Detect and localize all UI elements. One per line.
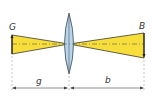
object-distance-label: g (36, 77, 42, 86)
object-ray-cone (12, 35, 69, 54)
dimension-g-arrow-right-icon (64, 87, 68, 90)
dimension-b-arrow-right-icon (140, 87, 144, 90)
image-ray-cone (69, 33, 144, 58)
object-label: G (9, 23, 16, 32)
dimension-g-arrow-left-icon (12, 87, 16, 90)
image-distance-label: b (105, 76, 111, 85)
image-label: B (139, 22, 145, 31)
dimension-b-arrow-left-icon (70, 87, 74, 90)
lens-diagram-svg (0, 0, 156, 98)
lens-diagram: G B g b (0, 0, 156, 98)
